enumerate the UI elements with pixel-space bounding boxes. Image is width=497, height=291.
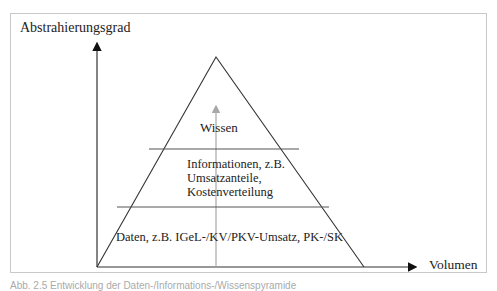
figure-caption: Abb. 2.5 Entwicklung der Daten-/Informat…: [10, 280, 296, 291]
tier-mid-line-1: Informationen, z.B.: [187, 157, 285, 171]
y-axis-label: Abstrahierungsgrad: [20, 20, 130, 35]
tier-mid-line-3: Kostenverteilung: [187, 185, 285, 199]
x-axis-label: Volumen: [429, 257, 478, 272]
tier-daten-label: Daten, z.B. IGeL-/KV/PKV-Umsatz, PK-/SK: [116, 230, 343, 245]
tier-mid-line-2: Umsatzanteile,: [187, 171, 285, 185]
tier-wissen-label: Wissen: [200, 120, 234, 135]
tier-informationen-label: Informationen, z.B. Umsatzanteile, Koste…: [187, 157, 285, 199]
